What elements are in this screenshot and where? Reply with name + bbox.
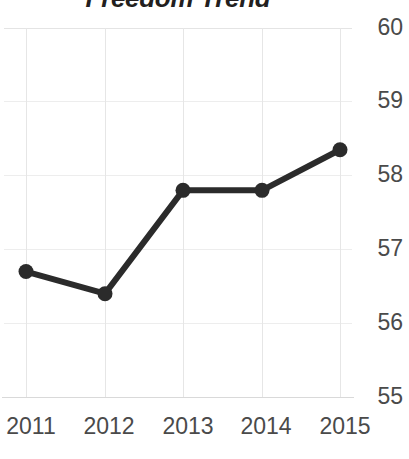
data-point: [19, 264, 34, 279]
data-point: [176, 183, 191, 198]
chart-container: Freedom Trend 60 59 58 57 56 55 2011 201…: [0, 0, 409, 459]
x-tick-label: 2011: [6, 415, 55, 438]
plot-area: [0, 0, 356, 410]
x-tick-label: 2013: [162, 415, 213, 438]
data-point: [333, 142, 348, 157]
y-tick-label: 60: [356, 16, 403, 39]
x-axis: 2011 2012 2013 2014 2015: [0, 415, 356, 455]
data-series-layer: [0, 0, 356, 410]
x-tick-label: 2015: [319, 415, 370, 438]
y-tick-label: 57: [356, 237, 403, 260]
y-axis: 60 59 58 57 56 55: [356, 0, 409, 410]
y-tick-label: 58: [356, 163, 403, 186]
y-tick-label: 55: [356, 385, 403, 408]
x-tick-label: 2014: [240, 415, 291, 438]
y-tick-label: 56: [356, 311, 403, 334]
data-markers: [19, 142, 348, 301]
x-tick-label: 2012: [83, 415, 134, 438]
y-tick-label: 59: [356, 89, 403, 112]
data-point: [98, 286, 113, 301]
data-point: [255, 183, 270, 198]
data-line-freedom-score: [26, 150, 340, 294]
